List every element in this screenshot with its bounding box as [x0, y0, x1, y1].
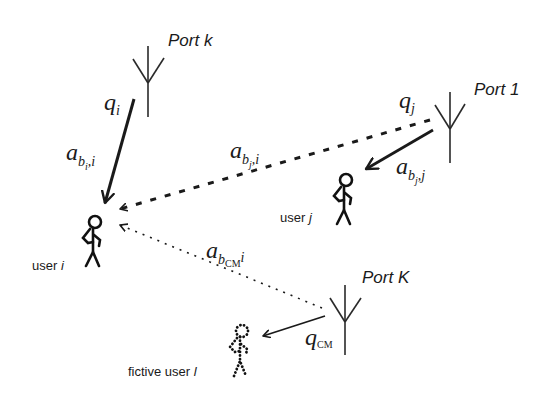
q-cm-symbol: qCM	[305, 324, 333, 350]
a-bj-j-symbol: abj,j	[396, 153, 425, 186]
person-icon-user-i	[83, 216, 101, 266]
antenna-icon-port-k	[133, 46, 164, 117]
port-1-label: Port 1	[474, 80, 519, 99]
q-j-symbol: qj	[399, 87, 415, 116]
person-icon-user-j	[334, 174, 352, 224]
antenna-icon-port-K	[330, 285, 361, 355]
q-i-symbol: qi	[104, 89, 120, 118]
a-bj-i-symbol: abj,i	[230, 137, 259, 170]
port-k-label: Port k	[168, 31, 214, 50]
person-icon-fictive-user-l	[230, 325, 248, 376]
user-j-label: user j	[280, 210, 313, 225]
antenna-icon-port-1	[435, 92, 465, 163]
port-K-label: Port K	[362, 268, 410, 287]
fictive-user-l-label: fictive user l	[128, 364, 198, 379]
diagram-canvas: Port k Port 1 Port K user i user j	[0, 0, 558, 405]
link-port-1-to-user-i	[120, 120, 430, 209]
a-bi-i-symbol: abi,i	[66, 139, 95, 172]
user-i-label: user i	[32, 258, 65, 273]
a-bcm-i-symbol: abCMi	[206, 237, 245, 269]
